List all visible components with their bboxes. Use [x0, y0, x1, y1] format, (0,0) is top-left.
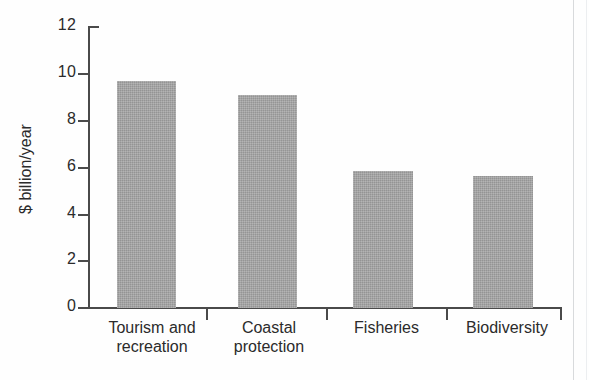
y-tick-mark: [78, 73, 89, 75]
y-axis-title: $ billion/year: [17, 99, 35, 239]
y-tick-0: 0: [40, 307, 89, 309]
y-tick-mark: [78, 120, 89, 122]
y-tick-label-10: 10: [42, 63, 76, 81]
chart-page: $ billion/year 0 2 4 6 8 10: [0, 0, 589, 380]
x-label-line-1: Biodiversity: [448, 318, 566, 337]
bar-biodiversity: [473, 176, 533, 308]
y-axis-top-cap: [88, 26, 99, 28]
x-label-line-1: Fisheries: [330, 318, 443, 337]
x-label-line-2: protection: [213, 337, 325, 356]
y-tick-2: 2: [40, 260, 89, 262]
scan-artifact-line: [573, 0, 574, 380]
y-tick-10: 10: [40, 73, 89, 75]
y-tick-label-6: 6: [42, 157, 76, 175]
y-tick-label-0: 0: [42, 297, 76, 315]
y-tick-mark: [78, 307, 89, 309]
y-tick-label-2: 2: [42, 250, 76, 268]
bar-fisheries: [353, 171, 413, 308]
y-tick-mark: [78, 260, 89, 262]
x-label-line-2: recreation: [96, 337, 208, 356]
bar-chart: $ billion/year 0 2 4 6 8 10: [0, 0, 589, 380]
y-tick-4: 4: [40, 214, 89, 216]
y-tick-mark: [78, 167, 89, 169]
y-tick-8: 8: [40, 120, 89, 122]
y-tick-12: 12: [40, 26, 89, 28]
x-label-line-1: Tourism and: [96, 318, 208, 337]
y-tick-mark: [78, 214, 89, 216]
y-tick-6: 6: [40, 167, 89, 169]
bar-tourism-and-recreation: [117, 81, 176, 308]
x-label-tourism-and-recreation: Tourism and recreation: [96, 318, 208, 356]
scan-artifact-line-secondary: [586, 0, 587, 380]
x-label-coastal-protection: Coastal protection: [213, 318, 325, 356]
x-label-fisheries: Fisheries: [330, 318, 443, 337]
x-label-biodiversity: Biodiversity: [448, 318, 566, 337]
y-tick-label-12: 12: [42, 16, 76, 34]
y-tick-label-8: 8: [42, 110, 76, 128]
y-tick-label-4: 4: [42, 204, 76, 222]
bar-coastal-protection: [238, 95, 297, 308]
x-tick-separator-2: [326, 309, 328, 320]
x-label-line-1: Coastal: [213, 318, 325, 337]
